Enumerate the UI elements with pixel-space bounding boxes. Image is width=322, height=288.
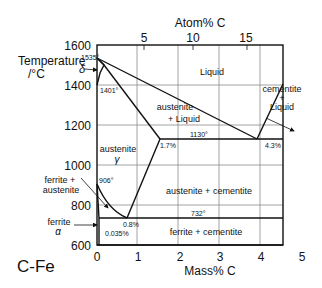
annot-906: 906° <box>99 177 114 184</box>
region-austenite-liquid-2: + Liquid <box>168 114 200 124</box>
y-axis-title-line1: Temperature <box>18 54 86 68</box>
region-ferrite-austenite-2: austenite <box>43 185 80 195</box>
region-liquid: Liquid <box>200 67 224 77</box>
x2-tick-15: 15 <box>239 31 253 45</box>
x-tick-2: 2 <box>177 250 184 264</box>
y-axis-title-line2: /°C <box>28 67 45 81</box>
x-axis-title: Mass% C <box>184 264 236 278</box>
x2-tick-10: 10 <box>186 31 200 45</box>
region-delta: δ <box>79 63 86 75</box>
y-tick-1000: 1000 <box>64 159 91 173</box>
x2-axis-title: Atom% C <box>175 16 226 30</box>
region-austenite-cementite: austenite + cementite <box>166 186 252 196</box>
x-tick-4: 4 <box>258 250 265 264</box>
y-tick-800: 800 <box>71 199 91 213</box>
top-axis-ticks <box>144 45 247 50</box>
y-tick-1200: 1200 <box>64 119 91 133</box>
annot-0-8: 0.8% <box>123 221 139 228</box>
annot-0-035: 0.035% <box>105 230 129 237</box>
y-tick-1600: 1600 <box>64 39 91 53</box>
region-ferrite-alpha: α <box>55 226 61 237</box>
annot-732: 732° <box>191 210 206 217</box>
x2-tick-5: 5 <box>141 31 148 45</box>
annot-4-3: 4.3% <box>265 142 281 149</box>
x-tick-0: 0 <box>94 250 101 264</box>
annot-1401: 1401° <box>100 87 119 94</box>
y-tick-1400: 1400 <box>64 79 91 93</box>
phase-diagram: 1600 1400 1200 1000 800 600 0 1 2 3 4 5 … <box>0 0 322 288</box>
x-tick-1: 1 <box>135 250 142 264</box>
region-austenite: austenite <box>100 144 137 154</box>
region-austenite-liquid-1: austenite <box>157 102 194 112</box>
region-ferrite-austenite-1: ferrite + <box>45 175 76 185</box>
region-cementite-liquid-3: Liquid <box>270 102 294 112</box>
system-title: C-Fe <box>17 257 55 276</box>
annot-1130: 1130° <box>190 131 208 138</box>
region-ferrite-cementite: ferrite + cementite <box>170 227 242 237</box>
annot-1-7: 1.7% <box>160 142 176 149</box>
x-tick-3: 3 <box>217 250 224 264</box>
x-tick-5: 5 <box>299 250 306 264</box>
y-tick-600: 600 <box>71 239 91 253</box>
annot-1535: 1535° <box>81 54 100 61</box>
region-austenite-gamma: γ <box>115 154 121 165</box>
